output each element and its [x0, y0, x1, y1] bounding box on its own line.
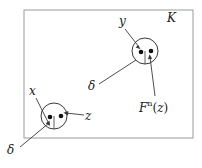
- point-label-z: z: [85, 110, 91, 122]
- point-label-fnz: Fn(z): [139, 101, 168, 114]
- point-z-dot: [59, 114, 64, 119]
- delta-label-upper: δ: [88, 80, 95, 92]
- point-label-y: y: [119, 15, 126, 27]
- leader-x: [36, 98, 49, 124]
- leader-y-arrowhead: [136, 45, 141, 49]
- point-x-dot: [48, 115, 53, 120]
- leader-fnz: [150, 57, 155, 96]
- fnz-close-paren: ): [164, 101, 169, 115]
- leader-y: [125, 29, 139, 47]
- region-label-k: K: [167, 12, 176, 24]
- delta-label-lower: δ: [7, 144, 14, 156]
- point-y-dot: [139, 50, 144, 55]
- fnz-exponent: n: [147, 99, 152, 108]
- figure-canvas: K y x z δ δ Fn(z): [0, 0, 202, 168]
- point-fnz-dot: [149, 49, 154, 54]
- leader-fnz-arrowhead: [148, 54, 152, 59]
- leader-z: [66, 113, 84, 115]
- point-label-x: x: [29, 85, 36, 97]
- leader-delta-upper: [99, 60, 136, 84]
